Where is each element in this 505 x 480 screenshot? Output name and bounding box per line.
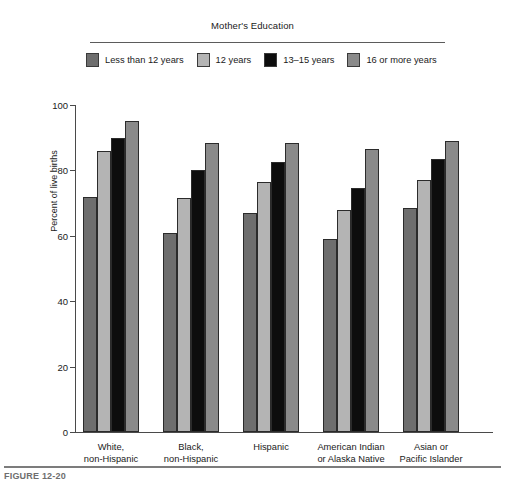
bar xyxy=(431,159,445,432)
x-axis-category-label-line: Hispanic xyxy=(253,441,289,453)
bar xyxy=(271,162,285,432)
x-axis-category-label-line: non-Hispanic xyxy=(164,453,218,465)
x-axis-line xyxy=(75,432,493,433)
y-axis-tick-label: 80 xyxy=(57,165,68,176)
bar xyxy=(285,143,299,432)
bar xyxy=(365,149,379,432)
x-axis-category-label: White,non-Hispanic xyxy=(84,441,138,465)
bar xyxy=(323,239,337,432)
bar-group: Hispanic xyxy=(243,105,299,432)
figure: Mother's Education Less than 12 years12 … xyxy=(0,0,505,480)
legend-item: 13–15 years xyxy=(264,53,334,67)
x-axis-category-label-line: Black, xyxy=(164,441,218,453)
bar xyxy=(83,197,97,432)
x-axis-category-label: Hispanic xyxy=(253,441,289,453)
x-axis-category-label-line: Pacific Islander xyxy=(399,453,462,465)
bar-group-bars xyxy=(403,105,459,432)
bar-group-bars xyxy=(323,105,379,432)
bar xyxy=(191,170,205,432)
x-axis-category-label: Asian orPacific Islander xyxy=(399,441,462,465)
y-axis-line xyxy=(75,105,76,432)
y-axis-tick-label: 20 xyxy=(57,361,68,372)
bar-group-bars xyxy=(243,105,299,432)
caption-divider xyxy=(4,466,501,468)
legend-item-label: Less than 12 years xyxy=(105,55,184,65)
legend-swatch xyxy=(264,53,277,67)
bar xyxy=(177,198,191,432)
bar-group: White,non-Hispanic xyxy=(83,105,139,432)
bar-group: Asian orPacific Islander xyxy=(403,105,459,432)
y-axis-tick xyxy=(70,105,75,106)
bar xyxy=(205,143,219,432)
legend-item: Less than 12 years xyxy=(86,53,184,67)
x-axis-category-label-line: American Indian xyxy=(317,441,384,453)
bar xyxy=(125,121,139,432)
x-axis-category-label: Black,non-Hispanic xyxy=(164,441,218,465)
legend-item-label: 12 years xyxy=(216,55,252,65)
y-axis-tick xyxy=(70,236,75,237)
y-axis-tick xyxy=(70,432,75,433)
bar xyxy=(111,138,125,432)
legend-swatch xyxy=(347,53,360,67)
y-axis-tick-label: 40 xyxy=(57,296,68,307)
bar xyxy=(417,180,431,432)
x-axis-category-label: American Indianor Alaska Native xyxy=(317,441,384,465)
legend-swatch xyxy=(197,53,210,67)
legend-divider xyxy=(90,42,445,43)
plot-area: White,non-HispanicBlack,non-HispanicHisp… xyxy=(75,105,493,432)
y-axis-tick xyxy=(70,301,75,302)
bar-group-bars xyxy=(163,105,219,432)
x-axis-category-label-line: Asian or xyxy=(399,441,462,453)
legend-item-label: 16 or more years xyxy=(366,55,436,65)
bar-group: American Indianor Alaska Native xyxy=(323,105,379,432)
x-axis-category-label-line: or Alaska Native xyxy=(317,453,384,465)
x-axis-category-label-line: White, xyxy=(84,441,138,453)
bar xyxy=(337,210,351,432)
bar xyxy=(351,188,365,432)
bar-group: Black,non-Hispanic xyxy=(163,105,219,432)
y-axis-tick-label: 60 xyxy=(57,230,68,241)
y-axis-tick-label: 0 xyxy=(63,427,68,438)
bar xyxy=(97,151,111,432)
bar-group-bars xyxy=(83,105,139,432)
x-axis-category-label-line: non-Hispanic xyxy=(84,453,138,465)
bar xyxy=(403,208,417,432)
legend: Less than 12 years12 years13–15 years16 … xyxy=(86,53,451,67)
legend-title: Mother's Education xyxy=(0,20,505,31)
figure-caption: FIGURE 12-20 xyxy=(4,471,66,480)
bar xyxy=(257,182,271,432)
y-axis-tick-label: 100 xyxy=(52,100,68,111)
y-axis-title: Percent of live births xyxy=(49,131,59,251)
bar xyxy=(243,213,257,432)
bar xyxy=(163,233,177,432)
y-axis-tick xyxy=(70,367,75,368)
bar xyxy=(445,141,459,432)
legend-item-label: 13–15 years xyxy=(283,55,334,65)
legend-item: 16 or more years xyxy=(347,53,436,67)
legend-swatch xyxy=(86,53,99,67)
legend-item: 12 years xyxy=(197,53,252,67)
y-axis-tick xyxy=(70,170,75,171)
